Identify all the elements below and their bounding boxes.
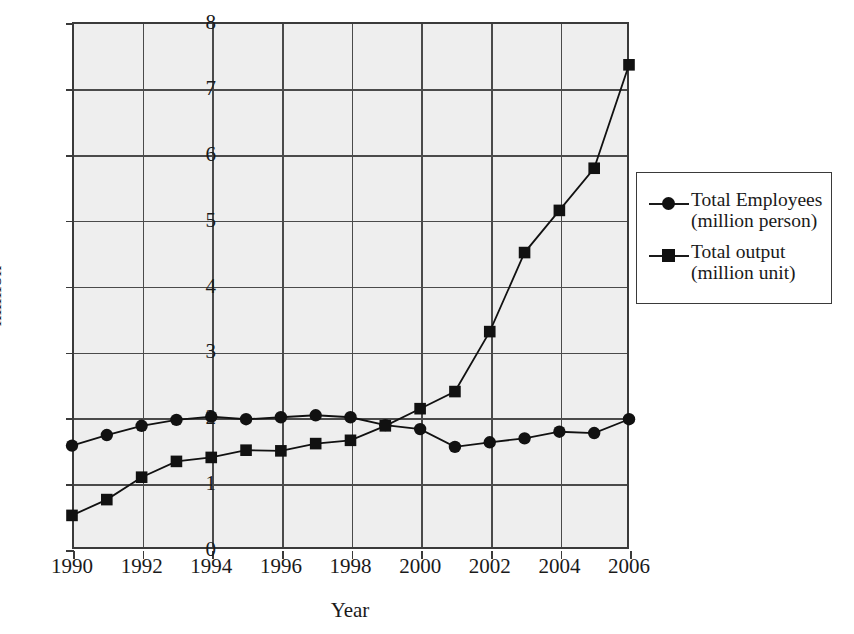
gridline-vertical — [561, 24, 563, 547]
plot-area — [72, 22, 629, 549]
gridline-vertical — [352, 24, 354, 547]
gridline-horizontal — [74, 89, 627, 91]
y-axis-tick-label: 2 — [160, 407, 216, 428]
x-axis-tick-label: 2002 — [450, 556, 530, 577]
gridline-horizontal — [74, 353, 627, 355]
y-axis-tick — [66, 155, 74, 157]
circle-marker-icon — [647, 192, 691, 216]
y-axis-tick — [66, 221, 74, 223]
x-axis-tick-label: 2006 — [589, 556, 669, 577]
y-axis-tick — [66, 23, 74, 25]
y-axis-tick-label: 1 — [160, 473, 216, 494]
square-marker-icon — [647, 244, 691, 268]
y-axis-title: million — [0, 266, 7, 327]
y-axis-tick-label: 3 — [160, 341, 216, 362]
gridline-horizontal — [74, 221, 627, 223]
gridline-horizontal — [74, 484, 627, 486]
gridline-vertical — [143, 24, 145, 547]
x-axis-tick-label: 1996 — [241, 556, 321, 577]
legend-item-total-output: Total output (million unit) — [647, 241, 796, 283]
gridline-horizontal — [74, 287, 627, 289]
y-axis-tick — [66, 353, 74, 355]
gridline-vertical — [491, 24, 493, 547]
y-axis-tick — [66, 287, 74, 289]
x-axis-tick-label: 1994 — [171, 556, 251, 577]
y-axis-tick — [66, 418, 74, 420]
gridline-horizontal — [74, 418, 627, 420]
x-axis-tick-label: 1990 — [32, 556, 112, 577]
chart-figure: 012345678 199019921994199619982000200220… — [0, 0, 854, 634]
y-axis-tick-label: 6 — [160, 143, 216, 164]
gridline-vertical — [282, 24, 284, 547]
gridline-horizontal — [74, 155, 627, 157]
x-axis-title: Year — [0, 598, 700, 623]
y-axis-tick-label: 4 — [160, 275, 216, 296]
x-axis-tick-label: 2000 — [380, 556, 460, 577]
legend-label-total-output: Total output (million unit) — [691, 241, 796, 283]
legend-label-total-employees: Total Employees (million person) — [691, 189, 822, 231]
legend-item-total-employees: Total Employees (million person) — [647, 189, 822, 231]
y-axis-tick-label: 5 — [160, 209, 216, 230]
y-axis-tick — [66, 484, 74, 486]
y-axis-tick-label: 8 — [160, 12, 216, 33]
x-axis-tick-label: 2004 — [519, 556, 599, 577]
x-axis-tick-label: 1998 — [311, 556, 391, 577]
y-axis-tick-label: 7 — [160, 77, 216, 98]
gridline-vertical — [421, 24, 423, 547]
chart-legend: Total Employees (million person) Total o… — [636, 172, 832, 304]
y-axis-tick — [66, 89, 74, 91]
x-axis-tick-label: 1992 — [102, 556, 182, 577]
